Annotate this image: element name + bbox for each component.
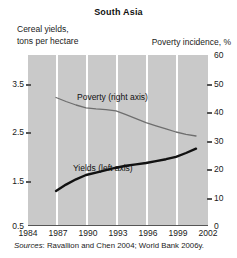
- right-axis-title: Poverty incidence, %: [81, 37, 231, 48]
- x-axis-line: [28, 225, 208, 226]
- right-tick-mark: [207, 169, 212, 171]
- sources-text: : Ravallion and Chen 2004; World Bank 20…: [43, 241, 204, 250]
- poverty-line: [56, 98, 196, 137]
- x-tick-1984: 1984: [11, 228, 45, 238]
- right-tick-30: 30: [214, 136, 236, 146]
- left-tick-mark: [26, 132, 31, 134]
- right-tick-mark: [207, 84, 212, 86]
- x-tick-1999: 1999: [161, 228, 195, 238]
- right-tick-mark: [207, 112, 212, 114]
- left-tick-3.5: 3.5: [2, 79, 24, 89]
- data-lines: [28, 55, 208, 225]
- poverty-series-annotation: Poverty (right axis): [77, 92, 148, 102]
- chart-figure: South Asia Cereal yields, tons per hecta…: [0, 0, 237, 258]
- yields-series-annotation: Yields (left axis): [73, 163, 133, 173]
- left-axis-title-line1: Cereal yields,: [17, 24, 69, 34]
- right-tick-20: 20: [214, 164, 236, 174]
- x-tick-1987: 1987: [41, 228, 75, 238]
- x-tick-2002: 2002: [191, 228, 225, 238]
- x-tick-1990: 1990: [71, 228, 105, 238]
- right-tick-50: 50: [214, 79, 236, 89]
- sources-note: Sources: Ravallion and Chen 2004; World …: [14, 241, 236, 250]
- sources-prefix: Sources: [14, 241, 43, 250]
- left-tick-mark: [26, 84, 31, 86]
- left-axis-title-line2: tons per hectare: [17, 36, 78, 46]
- left-tick-mark: [26, 181, 31, 183]
- right-tick-40: 40: [214, 107, 236, 117]
- right-tick-60: 60: [214, 50, 236, 60]
- left-tick-2.5: 2.5: [2, 127, 24, 137]
- right-tick-mark: [207, 141, 212, 143]
- right-tick-10: 10: [214, 193, 236, 203]
- right-tick-mark: [207, 198, 212, 200]
- left-tick-1.5: 1.5: [2, 176, 24, 186]
- x-tick-1996: 1996: [131, 228, 165, 238]
- chart-title: South Asia: [0, 7, 237, 17]
- x-tick-1993: 1993: [101, 228, 135, 238]
